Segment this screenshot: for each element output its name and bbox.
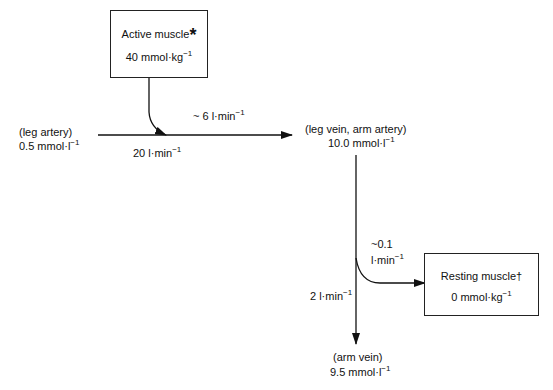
arm-vein-label: (arm vein) bbox=[333, 351, 383, 364]
asterisk-mark: * bbox=[189, 25, 196, 45]
arm-flow-label: 2 l·min−1 bbox=[310, 290, 352, 303]
active-muscle-value: 40 mmol·kg−1 bbox=[111, 51, 207, 63]
resting-inflow-value: ~0.1 bbox=[371, 238, 393, 251]
leg-vein-arm-artery-label: (leg vein, arm artery) bbox=[305, 123, 406, 136]
leg-vein-arm-artery-value: 10.0 mmol·l−1 bbox=[328, 137, 395, 150]
leg-artery-label: (leg artery) bbox=[19, 126, 72, 139]
resting-muscle-box: Resting muscle† 0 mmol·kg−1 bbox=[424, 253, 539, 316]
resting-muscle-title: Resting muscle† bbox=[425, 270, 538, 282]
diagram-lines bbox=[0, 0, 553, 390]
resting-inflow-unit: l·min−1 bbox=[371, 254, 404, 267]
leg-artery-value: 0.5 mmol·l−1 bbox=[19, 140, 79, 153]
leg-flow-label: 20 l·min−1 bbox=[133, 147, 181, 160]
active-outflow-label: ~ 6 l·min−1 bbox=[193, 110, 245, 123]
dagger-mark: † bbox=[516, 270, 522, 282]
active-muscle-box: Active muscle* 40 mmol·kg−1 bbox=[110, 10, 208, 78]
arm-vein-value: 9.5 mmol·l−1 bbox=[330, 366, 390, 379]
active-muscle-title: Active muscle* bbox=[111, 28, 207, 40]
resting-muscle-value: 0 mmol·kg−1 bbox=[425, 291, 538, 303]
